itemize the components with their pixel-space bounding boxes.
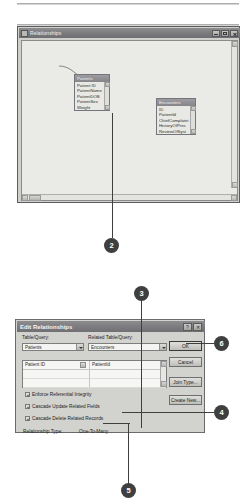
grid-scrollbar[interactable]	[160, 361, 166, 387]
dialog-title: Edit Relationships	[20, 324, 183, 330]
relationships-window-title: Relationships	[30, 30, 212, 36]
field-patients-0[interactable]: Patient ID	[77, 83, 96, 88]
callout-6: 6	[214, 336, 229, 351]
related-table-query-combo[interactable]: Encounters	[88, 343, 167, 351]
scroll-down-icon[interactable]	[191, 129, 196, 134]
edit-relationships-dialog: Edit Relationships ? ✕ Table/Query: Rela…	[15, 319, 205, 433]
table-box-patients-scrollbar[interactable]	[104, 82, 109, 110]
checkbox-cascade-delete-related-records[interactable]: Cascade Delete Related Records	[25, 416, 103, 421]
relationships-diagram-area: Patients Patient ID PatientName PatientD…	[22, 41, 231, 194]
table-box-encounters[interactable]: Encounters ID PatientId ChiefComplaint H…	[156, 98, 196, 135]
left-field-dropdown-icon[interactable]	[80, 362, 86, 368]
field-mapping-row-empty-1[interactable]	[23, 370, 166, 379]
table-box-patients[interactable]: Patients Patient ID PatientName PatientD…	[74, 74, 110, 111]
scroll-right-icon[interactable]	[231, 195, 237, 201]
relationships-window-icon	[21, 30, 28, 37]
help-icon[interactable]: ?	[183, 323, 192, 331]
scroll-up-icon[interactable]	[232, 41, 238, 47]
chevron-down-icon[interactable]	[76, 344, 83, 350]
left-field-value[interactable]: Patient ID	[25, 361, 81, 369]
checkbox-icon[interactable]	[25, 416, 30, 421]
checkbox-enforce-referential-integrity[interactable]: Enforce Referential Integrity	[25, 392, 91, 397]
chevron-down-icon[interactable]	[159, 344, 166, 350]
callout-2: 2	[104, 238, 119, 253]
callout-6-leader	[186, 343, 216, 344]
table-box-encounters-body: ID PatientId ChiefComplaint HistoryOfPre…	[157, 106, 195, 134]
join-type-button[interactable]: Join Type...	[169, 377, 202, 387]
close-icon[interactable]: ✕	[193, 323, 202, 331]
scroll-up-icon[interactable]	[161, 361, 167, 367]
table-query-label: Table/Query:	[22, 335, 49, 340]
table-query-combo[interactable]: Patients	[22, 343, 84, 351]
callout-4: 4	[214, 405, 229, 420]
relationships-titlebar-buttons	[212, 30, 238, 37]
dialog-body: Table/Query: Related Table/Query: Patien…	[17, 332, 203, 431]
maximize-icon[interactable]	[221, 30, 229, 37]
related-table-query-label: Related Table/Query:	[88, 335, 133, 340]
scroll-up-icon[interactable]	[191, 106, 196, 111]
scroll-up-icon[interactable]	[105, 82, 110, 87]
table-query-value: Patients	[25, 345, 42, 350]
right-field-value[interactable]: PatientId	[92, 361, 154, 369]
table-box-patients-title: Patients	[75, 75, 109, 82]
relationships-canvas[interactable]: Patients Patient ID PatientName PatientD…	[21, 40, 238, 201]
scroll-left-icon[interactable]	[22, 195, 28, 201]
close-icon[interactable]	[230, 30, 238, 37]
canvas-horizontal-scrollbar[interactable]	[22, 194, 237, 200]
callout-3: 3	[134, 286, 149, 301]
field-mapping-row[interactable]: Patient ID PatientId	[23, 361, 166, 370]
related-table-query-value: Encounters	[91, 345, 114, 350]
decorative-rule-top	[17, 3, 239, 5]
relationship-type-value: One-To-Many	[79, 429, 108, 434]
table-box-patients-body: Patient ID PatientName PatientDOB Patien…	[75, 82, 109, 110]
checkbox-label: Cascade Delete Related Records	[32, 416, 103, 421]
canvas-vertical-scrollbar[interactable]	[231, 41, 237, 188]
callout-4-leader	[122, 412, 214, 413]
relationship-connector-line	[22, 41, 231, 194]
dialog-titlebar: Edit Relationships ? ✕	[17, 321, 205, 332]
create-new-button[interactable]: Create New...	[169, 395, 202, 405]
checkbox-icon[interactable]	[25, 392, 30, 397]
scroll-down-icon[interactable]	[161, 381, 167, 387]
callout-3-leader	[141, 300, 142, 428]
callout-2-leader	[112, 113, 113, 238]
dialog-titlebar-buttons: ? ✕	[183, 323, 202, 331]
checkbox-icon[interactable]	[25, 404, 30, 409]
callout-5-leader-horizontal	[103, 423, 130, 424]
checkbox-label: Enforce Referential Integrity	[32, 392, 91, 397]
minimize-icon[interactable]	[212, 30, 220, 37]
checkbox-label: Cascade Update Related Fields	[32, 404, 100, 409]
relationship-type-label: Relationship Type:	[23, 429, 62, 434]
horizontal-scroll-thumb[interactable]	[29, 195, 41, 201]
callout-5-leader-vertical	[128, 423, 129, 485]
relationships-titlebar: Relationships	[19, 28, 240, 38]
checkbox-cascade-update-related-fields[interactable]: Cascade Update Related Fields	[25, 404, 100, 409]
relationships-window: Relationships Patients Patient ID Patien…	[17, 26, 240, 203]
callout-5: 5	[121, 483, 136, 498]
cancel-button[interactable]: Cancel	[169, 357, 202, 367]
scroll-down-icon[interactable]	[105, 105, 110, 110]
scroll-down-icon[interactable]	[232, 182, 238, 188]
grid-column-divider	[89, 361, 90, 387]
field-mapping-row-empty-2[interactable]	[23, 379, 166, 388]
table-box-encounters-scrollbar[interactable]	[190, 106, 195, 134]
field-mapping-grid[interactable]: Patient ID PatientId	[22, 360, 167, 388]
table-box-encounters-title: Encounters	[157, 99, 195, 106]
